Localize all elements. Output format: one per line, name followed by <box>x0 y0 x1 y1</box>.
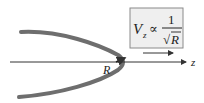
numerator: 1 <box>168 12 175 27</box>
velocity-subscript: z <box>142 30 147 40</box>
proportional-symbol: ∝ <box>149 21 158 36</box>
radical-sign: √ <box>163 32 171 47</box>
z-axis-label: z <box>190 56 196 68</box>
diagram-canvas: z R V z ∝ 1 √ R <box>0 0 204 103</box>
denominator: R <box>170 32 179 47</box>
radius-label: R <box>102 63 111 77</box>
